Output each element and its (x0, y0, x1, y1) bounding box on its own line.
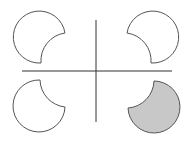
moon-shape-top-right (127, 11, 179, 63)
moon-shape-top-left (13, 11, 65, 63)
moon-shape-bottom-right-shaded (128, 81, 180, 133)
quadrant-diagram (0, 0, 191, 146)
moon-shape-bottom-left (13, 80, 65, 132)
